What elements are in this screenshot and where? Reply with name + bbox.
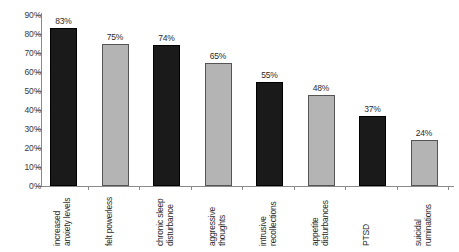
bar-value-label: 24% xyxy=(403,128,446,138)
y-axis-tick-label: 70% xyxy=(7,48,41,58)
y-axis-tick-label-wrap: 30% xyxy=(0,124,41,134)
bar xyxy=(50,28,77,186)
y-axis-tick-label-wrap: 50% xyxy=(0,86,41,96)
y-axis-tick-label: 80% xyxy=(7,29,41,39)
x-axis-tick xyxy=(294,186,295,190)
bar xyxy=(256,82,283,187)
y-axis-tick-label-wrap: 90% xyxy=(0,10,41,20)
y-axis-tick-label: 0% xyxy=(7,181,41,191)
x-axis-category-label: felt powerless xyxy=(105,188,115,246)
bar-value-label: 75% xyxy=(94,32,137,42)
y-axis-tick-label-wrap: 60% xyxy=(0,67,41,77)
y-axis-tick-label: 20% xyxy=(7,143,41,153)
bar xyxy=(411,140,438,186)
x-axis-tick xyxy=(88,186,89,190)
x-axis-tick xyxy=(345,186,346,190)
bar-value-label: 37% xyxy=(351,104,394,114)
x-axis-tick xyxy=(139,186,140,190)
bar xyxy=(308,95,335,186)
bar xyxy=(359,116,386,186)
y-axis-tick-label-wrap: 80% xyxy=(0,29,41,39)
x-axis-category-label: intrusive recollections xyxy=(259,188,278,246)
bar xyxy=(153,45,180,186)
bar xyxy=(205,63,232,187)
bar xyxy=(102,44,129,187)
x-axis-tick xyxy=(397,186,398,190)
x-axis-category-label: chronic sleep disturbance xyxy=(156,188,175,246)
y-axis-tick-label-wrap: 10% xyxy=(0,162,41,172)
bar-value-label: 74% xyxy=(145,33,188,43)
bar-value-label: 55% xyxy=(248,70,291,80)
y-axis-tick-label: 30% xyxy=(7,124,41,134)
y-axis-tick-label: 50% xyxy=(7,86,41,96)
x-axis-tick xyxy=(242,186,243,190)
x-axis-tick xyxy=(191,186,192,190)
y-axis-tick-label-wrap: 20% xyxy=(0,143,41,153)
x-axis-category-label: aggressive thoughts xyxy=(208,188,227,246)
bar-value-label: 83% xyxy=(42,16,85,26)
bar-chart: 0%10%20%30%40%50%60%70%80%90% 83%75%74%6… xyxy=(0,0,459,252)
y-axis-tick-label-wrap: 0% xyxy=(0,181,41,191)
x-axis-tick xyxy=(448,186,449,190)
x-axis-category-label: PTSD xyxy=(362,188,372,246)
x-axis-category-label: appetite disturbances xyxy=(311,188,330,246)
y-axis-tick-label: 60% xyxy=(7,67,41,77)
y-axis-tick-label: 40% xyxy=(7,105,41,115)
y-axis-tick-label: 10% xyxy=(7,162,41,172)
x-axis-category-label: increased anxiety levels xyxy=(53,188,72,246)
bar-value-label: 48% xyxy=(300,83,343,93)
y-axis-tick-label-wrap: 40% xyxy=(0,105,41,115)
y-axis-line xyxy=(41,13,42,187)
x-axis-category-label: suicidal ruminations xyxy=(414,188,433,246)
y-axis-tick-label-wrap: 70% xyxy=(0,48,41,58)
x-axis-line xyxy=(41,186,454,187)
bar-value-label: 65% xyxy=(197,51,240,61)
y-axis-tick-label: 90% xyxy=(7,10,41,20)
